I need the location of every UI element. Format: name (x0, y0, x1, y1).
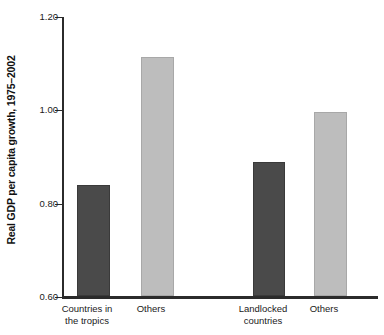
y-axis-line (62, 17, 64, 298)
y-tick-label: 0.80 (40, 197, 59, 210)
bar-countries-in-the-tropics (77, 185, 110, 296)
y-axis-title-text: Real GDP per capita growth, 1975–2002 (5, 55, 17, 244)
x-label-others-landlocked: Others (284, 303, 364, 315)
x-label-others-tropics: Others (111, 303, 191, 315)
y-tick-label: 1.00 (40, 103, 59, 116)
bar-chart: Real GDP per capita growth, 1975–2002 1.… (0, 0, 384, 335)
bar-others-tropics (141, 57, 174, 296)
bar-others-landlocked (314, 112, 347, 296)
y-tick-label: 1.20 (40, 10, 59, 23)
x-axis-line (62, 296, 378, 299)
y-axis-title: Real GDP per capita growth, 1975–2002 (0, 0, 22, 300)
plot-area: 1.20 1.00 0.80 0.60 0.40 0.20 0.00 (62, 17, 378, 298)
bar-landlocked-countries (253, 162, 285, 296)
y-tick-label: 0.60 (40, 290, 59, 303)
